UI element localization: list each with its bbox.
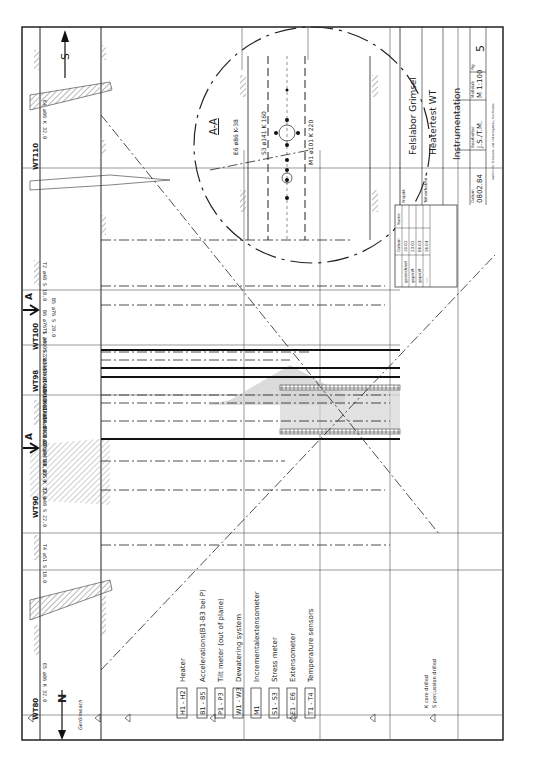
rev-cell: geprüft	[410, 268, 415, 283]
section-a-marker-top: A	[23, 293, 38, 315]
legend-item: S1 - S3 Stress meter	[269, 637, 279, 718]
north-label: N	[56, 694, 69, 703]
tunnel-marker: WT110	[32, 143, 40, 170]
legend-item: B1 - B5 Accelerations(B1-B3 bei P)	[197, 589, 207, 718]
legend-desc: Stress meter	[271, 637, 279, 682]
tunnel-marker: WT98	[32, 370, 40, 392]
subproject-name: Heatertest WT	[428, 89, 438, 155]
borehole-label: E4 ø86 K 32.0	[42, 100, 48, 139]
title-block: Projekt Felslabor Grimsel Teilvorhaben H…	[400, 27, 495, 205]
tunnel-marker: WT90	[32, 496, 40, 518]
teilvorhaben-label: Teilvorhaben	[423, 177, 428, 204]
drawing-title: Instrumentation	[452, 88, 462, 160]
borehole-label: T2 ø48 S 18.0	[42, 262, 48, 301]
rev-cell: 10.02	[403, 240, 408, 252]
rev-cell: gezeichnet	[403, 261, 408, 283]
section-marker-label: A	[24, 293, 34, 300]
heater-h1	[280, 385, 400, 390]
legend-desc: Accelerations(B1-B3 bei P)	[199, 589, 207, 682]
legend-item: T1 - T4 Temperature sensors	[305, 608, 315, 718]
legend-item: M1 Incrementalextensometer	[251, 591, 261, 718]
legend-item: P1 - P3 Tilt meter (out of plane)	[215, 598, 225, 718]
legend-item: E1 - E6 Extensometer	[287, 633, 297, 718]
borehole-label: T4 ø51 S 18.0	[42, 544, 48, 583]
bearbeiter-label: Bearbeiter	[470, 127, 475, 148]
datum-label: Datum	[470, 189, 475, 203]
legend-item: H1 - H2 Heater	[177, 658, 187, 718]
legend-desc: Heater	[179, 658, 187, 682]
legend-note: S percussion drilled	[431, 659, 438, 708]
section-label: A-A	[208, 118, 219, 135]
rev-cell: geprüft	[417, 268, 422, 283]
engineering-drawing: A-A E6 ø86 K-38 S3 ø141 K 160 M1 ø101 K …	[0, 0, 535, 765]
legend-code: P1 - P3	[217, 692, 225, 715]
legend-code: T1 - T4	[307, 692, 315, 716]
heater-h2	[280, 429, 400, 434]
borehole-label: B5 ø76 S 20.0	[51, 298, 57, 337]
legend: H1 - H2 Heater B1 - B5 Accelerations(B1-…	[177, 589, 438, 718]
section-annotation: S3 ø141 K 160	[260, 111, 267, 155]
legend-code: H1 - H2	[179, 690, 187, 715]
section-annotation: E6 ø86 K-38	[232, 119, 239, 155]
fig-label: Fig	[470, 64, 475, 70]
legend-desc: Incrementalextensometer	[253, 591, 261, 682]
project-name: Felslabor Grimsel	[408, 77, 418, 155]
borehole-label: T3 ø48 S 22.0	[42, 488, 48, 527]
tunnel-marker: WT100	[32, 323, 40, 350]
borehole-label: E5 ø86 K 32.0	[42, 663, 48, 702]
bearbeiter-value: J.S./T.M.	[476, 121, 484, 149]
rev-cell: 26.04	[424, 240, 429, 252]
massstab-label: Maßstab	[470, 80, 475, 98]
rev-cell: 23.02	[410, 240, 415, 252]
legend-code: S1 - S3	[271, 692, 279, 715]
section-marker-label: A	[24, 433, 34, 440]
legend-code: M1	[253, 705, 261, 715]
institute-footer: Institut für Strassen- und Untertagebau,…	[491, 104, 495, 180]
legend-desc: Tilt meter (out of plane)	[217, 598, 225, 683]
legend-item: W1 - W3 Dewatering system	[233, 614, 243, 718]
legend-code: E1 - E6	[289, 692, 297, 715]
legend-desc: Extensometer	[289, 633, 297, 682]
legend-desc: Temperature sensors	[307, 608, 315, 683]
datum-value: 0802.84	[476, 174, 484, 203]
projekt-label: Projekt	[401, 189, 406, 203]
north-note: Gerölmeach	[77, 700, 83, 730]
rev-cell: ----	[424, 277, 429, 283]
rev-cell: 06.03	[417, 240, 422, 252]
legend-code: B1 - B5	[199, 691, 207, 715]
south-arrow: S	[59, 30, 72, 78]
south-label: S	[59, 53, 72, 60]
legend-note: K core drilled	[423, 675, 429, 708]
legend-code: W1 - W3	[235, 687, 243, 715]
rev-header-name: Name	[396, 213, 401, 225]
revision-table: Datum Name gezeichnet 10.02 geprüft 23.0…	[395, 205, 457, 287]
rev-header-datum: Datum	[396, 238, 401, 252]
section-annotation: M1 ø101 K 220	[307, 120, 314, 165]
massstab-value: M 1:100	[476, 70, 484, 98]
fig-number: 5	[474, 45, 487, 52]
legend-desc: Dewatering system	[235, 614, 243, 682]
